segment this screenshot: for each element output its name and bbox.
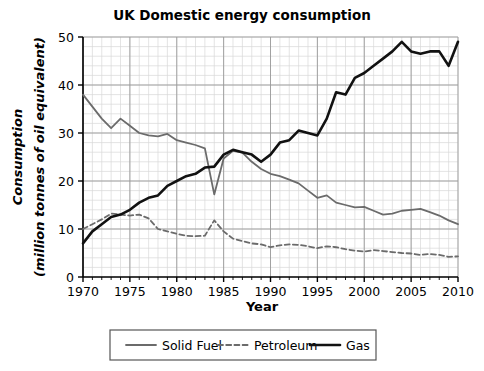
x-tick-label: 1980 [161,284,193,299]
y-axis-label-line2: (million tonnes of oil equivalent) [32,37,47,277]
chart-figure: UK Domestic energy consumption 197019751… [0,0,484,371]
x-tick-label: 2000 [348,284,380,299]
legend-label-solid-fuel: Solid Fuel [162,338,222,353]
x-tick-label: 2010 [442,284,474,299]
legend-label-petroleum: Petroleum [254,338,317,353]
y-tick-label: 30 [58,126,74,141]
x-tick-label: 1970 [67,284,99,299]
y-axis-label-line1: Consumption [10,109,25,205]
x-tick-label: 1985 [208,284,240,299]
y-tick-label: 0 [66,270,74,285]
chart-legend: Solid FuelPetroleumGas [110,330,376,360]
x-tick-label: 1975 [114,284,146,299]
x-tick-label: 2005 [395,284,427,299]
chart-title: UK Domestic energy consumption [113,7,371,23]
x-tick-label: 1995 [301,284,333,299]
y-tick-label: 20 [58,174,74,189]
x-tick-labels: 197019751980198519901995200020052010 [67,284,474,299]
y-tick-label: 10 [58,222,74,237]
y-tick-label: 50 [58,30,74,45]
x-axis-label: Year [245,299,279,314]
line-chart: UK Domestic energy consumption 197019751… [0,0,484,371]
legend-label-gas: Gas [346,338,370,353]
x-tick-label: 1990 [255,284,287,299]
y-tick-label: 40 [58,78,74,93]
